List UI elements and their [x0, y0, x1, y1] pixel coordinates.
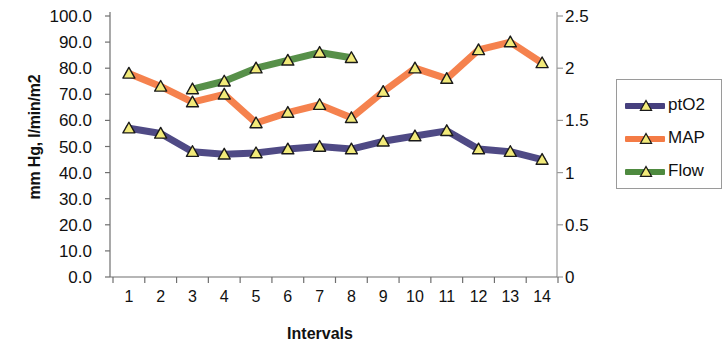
x-axis-tick-label: 5 [241, 288, 271, 306]
x-axis-tick-label: 6 [273, 288, 303, 306]
series-flow [186, 47, 357, 94]
legend-swatch-icon [625, 128, 665, 148]
x-axis-title: Intervals [100, 325, 540, 343]
legend-item-pto2[interactable]: ptO2 [625, 94, 705, 116]
x-axis-tick-label: 14 [527, 288, 557, 306]
x-axis-tick-label: 3 [177, 288, 207, 306]
x-axis-tick-label: 13 [495, 288, 525, 306]
legend-label: MAP [668, 128, 705, 148]
legend-item-map[interactable]: MAP [625, 127, 705, 149]
series-line [192, 53, 351, 90]
legend-triangle-marker-icon [639, 165, 653, 179]
legend-item-flow[interactable]: Flow [625, 160, 704, 182]
x-axis-tick-label: 11 [432, 288, 462, 306]
legend-label: ptO2 [668, 95, 705, 115]
series-pto2 [123, 122, 548, 164]
legend-triangle-marker-icon [639, 132, 653, 146]
chart-legend: ptO2MAPFlow [616, 79, 722, 189]
x-axis-tick-label: 12 [464, 288, 494, 306]
chart-container: mm Hg, l/min/m2 100.090.080.070.060.050.… [0, 0, 726, 360]
x-axis-tick-label: 1 [114, 288, 144, 306]
legend-swatch-icon [625, 95, 665, 115]
legend-label: Flow [668, 161, 704, 181]
x-axis-tick-label: 4 [209, 288, 239, 306]
x-axis-tick-label: 7 [305, 288, 335, 306]
x-axis-tick-label: 2 [146, 288, 176, 306]
legend-triangle-marker-icon [639, 99, 653, 113]
x-axis-tick-label: 10 [400, 288, 430, 306]
legend-swatch-icon [625, 161, 665, 181]
series-map [123, 36, 548, 128]
x-axis-tick-label: 8 [336, 288, 366, 306]
x-axis-tick-label: 9 [368, 288, 398, 306]
